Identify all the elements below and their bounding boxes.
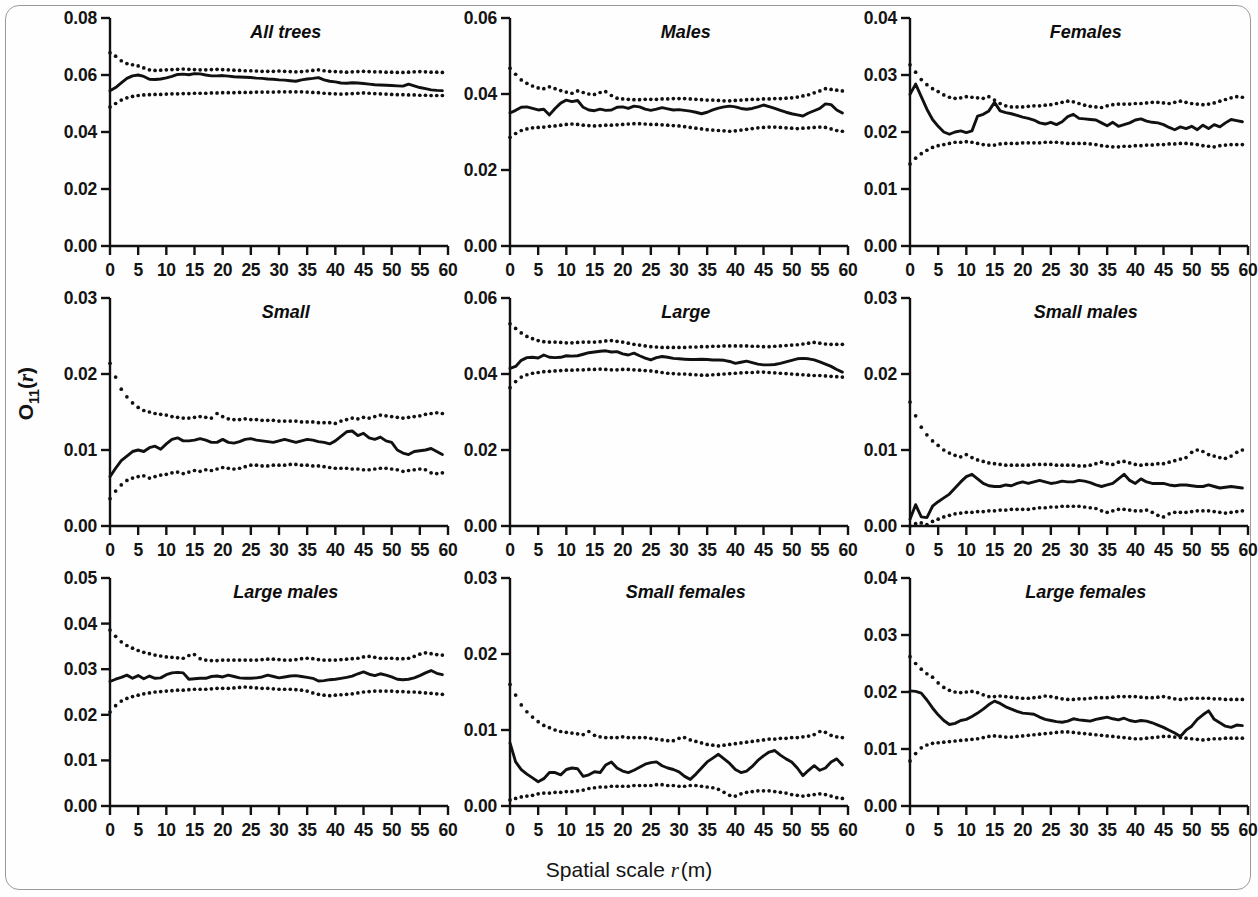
x-tick-label: 35 bbox=[698, 540, 717, 561]
y-tick-label: 0.00 bbox=[464, 516, 497, 537]
y-tick-label: 0.06 bbox=[464, 8, 497, 29]
x-tick-label: 10 bbox=[957, 260, 976, 281]
x-tick-label: 35 bbox=[698, 260, 717, 281]
y-axis-label: O11(r) bbox=[14, 334, 41, 454]
y-tick-label: 0.00 bbox=[864, 516, 897, 537]
x-tick-label: 30 bbox=[270, 540, 289, 561]
x-tick-label: 15 bbox=[185, 260, 204, 281]
x-tick-label: 60 bbox=[439, 540, 458, 561]
x-tick-label: 15 bbox=[985, 260, 1004, 281]
x-tick-label: 10 bbox=[957, 820, 976, 841]
x-tick-label: 50 bbox=[782, 540, 801, 561]
y-tick-label: 0.04 bbox=[64, 122, 97, 143]
chart-panel-large-males: 0.000.010.020.030.040.050510152025303540… bbox=[62, 570, 462, 846]
x-tick-label: 40 bbox=[326, 260, 345, 281]
x-tick-label: 55 bbox=[410, 540, 429, 561]
x-tick-label: 45 bbox=[1154, 540, 1173, 561]
x-tick-label: 25 bbox=[641, 820, 660, 841]
x-tick-label: 30 bbox=[270, 260, 289, 281]
x-tick-label: 50 bbox=[382, 260, 401, 281]
x-tick-label: 25 bbox=[1041, 540, 1060, 561]
y-tick-label: 0.02 bbox=[864, 364, 897, 385]
panel-title: Large bbox=[661, 302, 710, 323]
y-tick-label: 0.08 bbox=[64, 8, 97, 29]
y-tick-label: 0.03 bbox=[864, 625, 897, 646]
x-tick-label: 60 bbox=[1239, 820, 1258, 841]
x-tick-label: 25 bbox=[241, 540, 260, 561]
panel-title: Small females bbox=[626, 582, 746, 603]
x-tick-label: 55 bbox=[1210, 820, 1229, 841]
x-tick-label: 30 bbox=[670, 820, 689, 841]
x-tick-label: 5 bbox=[533, 260, 542, 281]
x-tick-label: 0 bbox=[905, 820, 914, 841]
y-tick-label: 0.00 bbox=[864, 236, 897, 257]
x-tick-label: 10 bbox=[957, 540, 976, 561]
y-tick-label: 0.01 bbox=[464, 720, 497, 741]
figure-panel-grid: 0.000.020.040.060.0805101520253035404550… bbox=[0, 0, 1258, 897]
y-tick-label: 0.02 bbox=[64, 704, 97, 725]
x-tick-label: 0 bbox=[905, 540, 914, 561]
y-tick-label: 0.02 bbox=[864, 122, 897, 143]
x-tick-label: 50 bbox=[382, 820, 401, 841]
y-tick-label: 0.02 bbox=[864, 682, 897, 703]
x-tick-label: 15 bbox=[985, 540, 1004, 561]
panel-title: Small bbox=[262, 302, 310, 323]
x-tick-label: 0 bbox=[105, 540, 114, 561]
chart-panel-large: 0.000.020.040.06051015202530354045505560… bbox=[462, 290, 862, 566]
x-tick-label: 20 bbox=[1013, 820, 1032, 841]
y-tick-label: 0.02 bbox=[464, 160, 497, 181]
y-tick-label: 0.03 bbox=[464, 568, 497, 589]
x-tick-label: 45 bbox=[354, 540, 373, 561]
chart-panel-large-females: 0.000.010.020.030.0405101520253035404550… bbox=[862, 570, 1258, 846]
x-tick-label: 45 bbox=[754, 260, 773, 281]
y-tick-label: 0.01 bbox=[864, 739, 897, 760]
y-tick-label: 0.04 bbox=[464, 84, 497, 105]
x-tick-label: 40 bbox=[326, 820, 345, 841]
y-tick-label: 0.02 bbox=[464, 644, 497, 665]
y-tick-label: 0.00 bbox=[464, 796, 497, 817]
x-tick-label: 50 bbox=[1182, 260, 1201, 281]
x-tick-label: 40 bbox=[726, 540, 745, 561]
x-tick-label: 20 bbox=[1013, 260, 1032, 281]
x-tick-label: 55 bbox=[1210, 260, 1229, 281]
x-tick-label: 5 bbox=[533, 820, 542, 841]
x-tick-label: 20 bbox=[613, 820, 632, 841]
x-tick-label: 30 bbox=[270, 820, 289, 841]
chart-panel-all-trees: 0.000.020.040.060.0805101520253035404550… bbox=[62, 10, 462, 286]
x-tick-label: 55 bbox=[810, 540, 829, 561]
x-tick-label: 40 bbox=[726, 820, 745, 841]
x-tick-label: 10 bbox=[157, 540, 176, 561]
x-tick-label: 45 bbox=[1154, 820, 1173, 841]
x-tick-label: 30 bbox=[1070, 540, 1089, 561]
x-tick-label: 5 bbox=[933, 820, 942, 841]
x-tick-label: 60 bbox=[1239, 540, 1258, 561]
x-tick-label: 20 bbox=[213, 820, 232, 841]
y-tick-label: 0.00 bbox=[64, 796, 97, 817]
x-tick-label: 5 bbox=[533, 540, 542, 561]
x-tick-label: 15 bbox=[185, 540, 204, 561]
x-tick-label: 50 bbox=[1182, 820, 1201, 841]
x-tick-label: 40 bbox=[1126, 820, 1145, 841]
x-tick-label: 25 bbox=[241, 820, 260, 841]
y-tick-label: 0.01 bbox=[864, 179, 897, 200]
x-tick-label: 0 bbox=[905, 260, 914, 281]
x-tick-label: 35 bbox=[1098, 260, 1117, 281]
x-tick-label: 25 bbox=[1041, 820, 1060, 841]
panel-title: Large females bbox=[1025, 582, 1146, 603]
x-tick-label: 10 bbox=[557, 540, 576, 561]
y-tick-label: 0.04 bbox=[864, 568, 897, 589]
x-tick-label: 55 bbox=[1210, 540, 1229, 561]
x-tick-label: 60 bbox=[839, 260, 858, 281]
x-tick-label: 60 bbox=[1239, 260, 1258, 281]
x-axis-label: Spatial scale r (m) bbox=[0, 858, 1258, 883]
x-tick-label: 5 bbox=[933, 540, 942, 561]
x-tick-label: 25 bbox=[1041, 260, 1060, 281]
x-tick-label: 0 bbox=[505, 540, 514, 561]
y-tick-label: 0.03 bbox=[864, 288, 897, 309]
x-tick-label: 35 bbox=[298, 260, 317, 281]
x-tick-label: 5 bbox=[933, 260, 942, 281]
x-tick-label: 40 bbox=[1126, 540, 1145, 561]
x-tick-label: 15 bbox=[585, 820, 604, 841]
x-tick-label: 45 bbox=[354, 820, 373, 841]
y-tick-label: 0.00 bbox=[464, 236, 497, 257]
